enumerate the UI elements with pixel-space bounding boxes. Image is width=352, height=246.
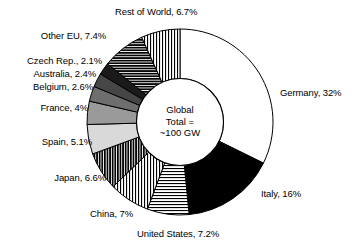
slice-label-italy: Italy, 16%	[261, 188, 301, 199]
slice-label-germany: Germany, 32%	[280, 87, 341, 98]
slice-label-china: China, 7%	[0, 208, 133, 219]
center-annotation: Global Total = ~100 GW	[140, 104, 220, 139]
slice-label-other-eu: Other EU, 7.4%	[0, 30, 106, 41]
slice-label-belgium: Belgium, 2.6%	[0, 81, 93, 92]
slice-label-united-states: United States, 7.2%	[137, 228, 219, 239]
slice-label-czech-rep: Czech Rep., 2.1%	[0, 55, 102, 66]
center-line-1: Global	[140, 104, 220, 116]
center-line-3: ~100 GW	[140, 127, 220, 139]
slice-label-rest-of-world: Rest of World, 6.7%	[115, 6, 197, 17]
slice-label-france: France, 4%	[0, 102, 88, 113]
center-line-2: Total =	[140, 116, 220, 128]
pie-chart-figure: Rest of World, 6.7% Other EU, 7.4% Czech…	[0, 0, 352, 246]
slice-label-spain: Spain, 5.1%	[0, 136, 92, 147]
slice-label-japan: Japan, 6.6%	[0, 172, 106, 183]
slice-label-australia: Australia, 2.4%	[0, 68, 96, 79]
